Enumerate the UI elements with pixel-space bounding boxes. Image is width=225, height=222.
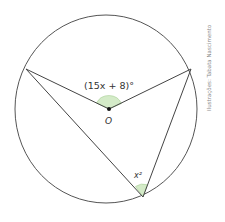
- chord-bc: [143, 69, 191, 197]
- inscribed-angle-label: x²: [133, 171, 143, 180]
- center-label: O: [105, 116, 112, 126]
- circle: [15, 15, 197, 203]
- illustration-credit: Ilustrações: Tabata Nascimento: [206, 25, 212, 111]
- central-angle-label: (15x + 8)°: [84, 80, 134, 91]
- central-angle-arc: [97, 96, 122, 109]
- geometry-diagram: (15x + 8)° O x²: [0, 0, 225, 222]
- center-point: [107, 107, 111, 111]
